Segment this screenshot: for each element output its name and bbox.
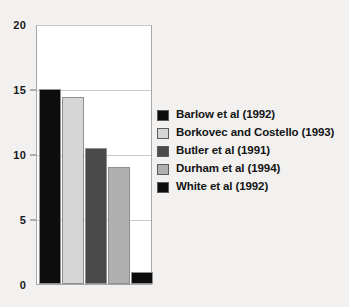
legend-swatch-icon-4 xyxy=(157,164,169,175)
y-tick-label-10: 10 xyxy=(13,150,26,161)
legend-swatch-icon-3 xyxy=(157,146,169,157)
bar-1 xyxy=(39,89,61,284)
legend-label-1: Barlow et al (1992) xyxy=(176,109,275,121)
bar-3 xyxy=(85,148,107,285)
bar-5 xyxy=(131,272,153,284)
legend-label-5: White et al (1992) xyxy=(176,181,268,193)
legend-swatch-icon-2 xyxy=(157,128,169,139)
legend-swatch-icon-5 xyxy=(157,182,169,193)
y-tick-label-5: 5 xyxy=(20,215,26,226)
legend-label-2: Borkovec and Costello (1993) xyxy=(176,127,334,139)
y-axis: 05101520 xyxy=(0,25,36,285)
y-tick-label-20: 20 xyxy=(13,20,26,31)
legend-swatch-icon-1 xyxy=(157,110,169,121)
y-tick-label-15: 15 xyxy=(13,85,26,96)
legend-item-2: Borkovec and Costello (1993) xyxy=(157,125,347,141)
bar-chart-figure: 05101520 Barlow et al (1992)Borkovec and… xyxy=(0,0,349,307)
legend-item-3: Butler et al (1991) xyxy=(157,143,347,159)
plot-area xyxy=(36,25,152,285)
y-tick-label-0: 0 xyxy=(20,280,26,291)
bar-2 xyxy=(62,97,84,284)
legend-item-4: Durham et al (1994) xyxy=(157,161,347,177)
legend-item-1: Barlow et al (1992) xyxy=(157,107,347,123)
bar-4 xyxy=(108,167,130,284)
legend-item-5: White et al (1992) xyxy=(157,179,347,195)
legend-label-3: Butler et al (1991) xyxy=(176,145,270,157)
chart-legend: Barlow et al (1992)Borkovec and Costello… xyxy=(157,107,347,197)
legend-label-4: Durham et al (1994) xyxy=(176,163,280,175)
gridline-20 xyxy=(37,25,151,26)
